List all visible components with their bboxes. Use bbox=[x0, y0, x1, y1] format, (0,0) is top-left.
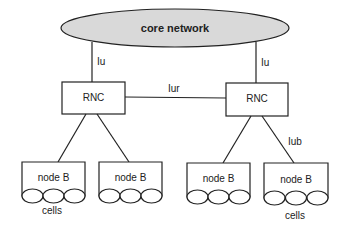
iu-right-label: Iu bbox=[261, 57, 269, 68]
node-b-2: node B bbox=[99, 162, 162, 203]
core-network-label: core network bbox=[141, 22, 210, 34]
rnc-left-label: RNC bbox=[83, 92, 105, 103]
node-b-3-label: node B bbox=[203, 173, 235, 184]
iub-label: Iub bbox=[288, 136, 302, 147]
rnc-right-label: RNC bbox=[246, 93, 268, 104]
node-b-1-label: node B bbox=[38, 172, 70, 183]
node-b-2-label: node B bbox=[115, 172, 147, 183]
node-b-4: node B bbox=[264, 163, 328, 205]
iur-link bbox=[125, 97, 226, 98]
iub-link-1 bbox=[58, 114, 86, 162]
iub-link-3 bbox=[223, 116, 251, 163]
iub-link-2 bbox=[97, 114, 129, 162]
cells-label-left: cells bbox=[42, 205, 62, 216]
node-b-1: node B bbox=[22, 162, 85, 203]
cells-label-right: cells bbox=[285, 210, 305, 221]
umts-network-diagram: core network Iu Iu RNC RNC Iur Iub node … bbox=[0, 0, 348, 227]
node-b-4-label: node B bbox=[280, 174, 312, 185]
iu-left-label: Iu bbox=[97, 56, 105, 67]
iur-label: Iur bbox=[168, 83, 180, 94]
node-b-3: node B bbox=[187, 163, 250, 204]
